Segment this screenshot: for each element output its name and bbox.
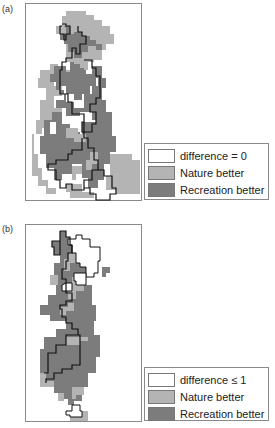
panel-a-label: (a) (2, 4, 13, 14)
panel-b-map-frame (25, 224, 142, 422)
difference-swatch (148, 373, 175, 387)
legend-label: Recreation better (180, 184, 264, 196)
panel-a-legend: difference = 0 Nature better Recreation … (144, 143, 269, 200)
legend-item-difference: difference ≤ 1 (148, 372, 265, 388)
panel-b-legend: difference ≤ 1 Nature better Recreation … (144, 367, 269, 421)
legend-label: difference ≤ 1 (180, 374, 246, 386)
legend-label: Recreation better (180, 408, 264, 420)
difference-patches (50, 122, 56, 134)
legend-item-nature-better: Nature better (148, 165, 265, 181)
recreation-better-swatch (148, 407, 175, 421)
legend-item-nature-better: Nature better (148, 389, 265, 405)
panel-a-map (26, 4, 143, 202)
panel-b-map (26, 225, 143, 423)
legend-item-recreation-better: Recreation better (148, 182, 265, 198)
legend-item-difference: difference = 0 (148, 148, 265, 164)
panel-b-label: (b) (2, 224, 13, 234)
legend-item-recreation-better: Recreation better (148, 406, 265, 422)
legend-label: Nature better (180, 391, 244, 403)
recreation-better-swatch (148, 183, 175, 197)
nature-better-swatch (148, 166, 175, 180)
difference-swatch (148, 149, 175, 163)
panel-a-map-frame (25, 3, 142, 201)
legend-label: difference = 0 (180, 150, 247, 162)
nature-better-swatch (148, 390, 175, 404)
legend-label: Nature better (180, 167, 244, 179)
